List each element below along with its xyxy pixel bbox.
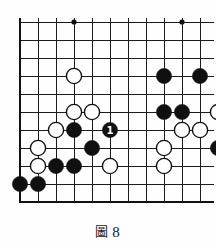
caption-figure-number: 8	[112, 217, 121, 247]
black-stone	[192, 68, 207, 83]
white-stone	[30, 140, 45, 155]
black-stone	[48, 158, 63, 173]
caption-figure-glyph: 圖	[95, 217, 109, 247]
white-stone	[30, 158, 45, 173]
black-stone	[174, 104, 189, 119]
move-number-label: 1	[107, 125, 114, 136]
star-point	[71, 19, 76, 24]
black-stone	[30, 176, 45, 191]
black-stone	[66, 158, 81, 173]
white-stone	[102, 158, 117, 173]
star-point	[179, 19, 184, 24]
black-stone	[210, 140, 216, 155]
white-stone	[210, 104, 216, 119]
figure-caption: 圖8	[0, 216, 216, 248]
white-stone	[84, 104, 99, 119]
black-stone	[156, 68, 171, 83]
white-stone	[174, 122, 189, 137]
white-stone	[66, 104, 81, 119]
white-stone	[192, 122, 207, 137]
white-stone	[66, 68, 81, 83]
go-figure: 1 圖8	[0, 0, 216, 248]
white-stone	[156, 140, 171, 155]
black-stone	[12, 176, 27, 191]
black-stone	[84, 140, 99, 155]
black-stone	[156, 104, 171, 119]
go-board-canvas: 1	[0, 0, 216, 215]
white-stone	[48, 122, 63, 137]
black-stone	[66, 122, 81, 137]
white-stone	[156, 158, 171, 173]
go-board: 1	[0, 0, 216, 215]
move-labels-layer: 1	[107, 125, 114, 136]
